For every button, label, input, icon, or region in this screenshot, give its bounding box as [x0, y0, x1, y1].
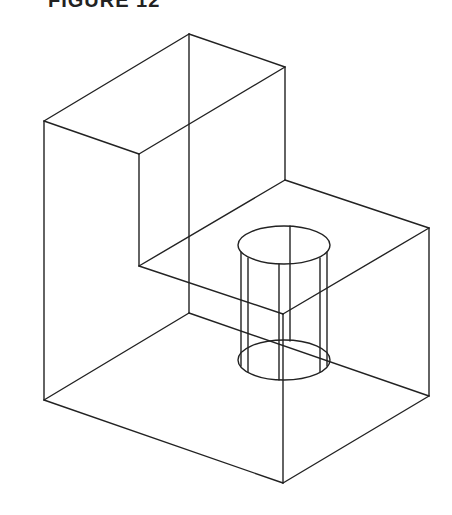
edge-line	[44, 313, 189, 400]
edge-line	[44, 121, 139, 154]
edge-line	[285, 180, 429, 228]
edge-line	[44, 400, 283, 483]
edge-line	[283, 228, 429, 314]
cylinder-top-ellipse	[238, 226, 330, 264]
block-edges	[44, 34, 429, 483]
isometric-drawing	[0, 0, 452, 515]
edge-line	[189, 313, 429, 396]
edge-line	[139, 266, 283, 314]
edge-line	[189, 34, 285, 67]
edge-line	[44, 34, 189, 121]
edge-line	[139, 180, 285, 266]
edge-line	[283, 396, 429, 483]
edge-line	[139, 67, 285, 154]
